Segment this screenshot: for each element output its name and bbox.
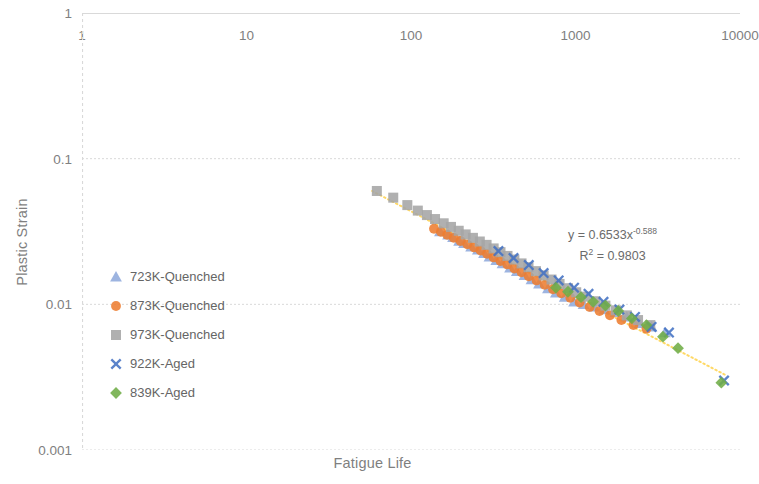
- diamond-marker-icon: [108, 385, 124, 401]
- legend-item-723k-quenched[interactable]: 723K-Quenched: [108, 262, 225, 291]
- equation-line: y = 0.6533x-0.588: [568, 225, 657, 246]
- data-point: [388, 193, 398, 203]
- legend-item-label: 973K-Quenched: [130, 327, 225, 342]
- r-squared-line: R2 = 0.9803: [568, 246, 657, 267]
- y-axis-title: Plastic Strain: [14, 172, 30, 312]
- legend-item-label: 922K-Aged: [130, 356, 195, 371]
- y-tick-label: 0.1: [0, 151, 72, 166]
- legend-item-922k-aged[interactable]: 922K-Aged: [108, 349, 225, 378]
- trendline-equation-annotation: y = 0.6533x-0.588 R2 = 0.9803: [568, 225, 657, 266]
- equation-text: y = 0.6533x: [568, 228, 633, 242]
- data-point: [413, 206, 423, 216]
- triangle-marker-icon: [108, 269, 124, 285]
- x-marker-icon: [108, 356, 124, 372]
- legend-item-label: 839K-Aged: [130, 385, 195, 400]
- data-point: [672, 342, 684, 354]
- data-point: [430, 214, 440, 224]
- legend-item-label: 873K-Quenched: [130, 298, 225, 313]
- x-axis-title: Fatigue Life: [0, 455, 745, 471]
- chart-legend: 723K-Quenched873K-Quenched973K-Quenched9…: [108, 262, 225, 407]
- legend-item-839k-aged[interactable]: 839K-Aged: [108, 378, 225, 407]
- circle-marker-icon: [108, 298, 124, 314]
- equation-exponent: -0.588: [633, 226, 657, 236]
- series-839k-aged: [550, 282, 727, 389]
- y-tick-label: 0.01: [0, 297, 72, 312]
- legend-item-label: 723K-Quenched: [130, 269, 225, 284]
- y-tick-label: 1: [0, 6, 72, 21]
- data-point: [402, 200, 412, 210]
- legend-item-973k-quenched[interactable]: 973K-Quenched: [108, 320, 225, 349]
- legend-item-873k-quenched[interactable]: 873K-Quenched: [108, 291, 225, 320]
- r-squared-value: = 0.9803: [593, 249, 645, 263]
- data-point: [372, 186, 382, 196]
- square-marker-icon: [108, 327, 124, 343]
